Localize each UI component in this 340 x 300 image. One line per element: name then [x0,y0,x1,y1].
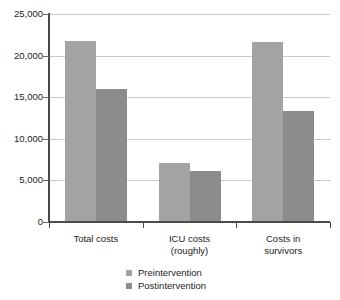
y-tick-label: 20,000 [1,51,43,61]
y-tick-label-wrap: 5,000 [0,175,43,185]
bar-preintervention [159,163,190,222]
bar-postintervention [283,111,314,222]
category-label-line1: ICU costs [169,233,210,244]
x-tick-mark [143,222,144,228]
y-tick-label-wrap: 0 [0,217,43,227]
y-tick-mark [43,14,49,15]
x-axis-line [49,221,330,223]
y-tick-label-wrap: 10,000 [0,134,43,144]
bar-preintervention [65,41,96,222]
legend: Preintervention Postintervention [126,266,266,292]
y-tick-label: 25,000 [1,9,43,19]
category-label: ICU costs(roughly) [143,233,237,256]
y-tick-label-wrap: 25,000 [0,9,43,19]
legend-label: Preintervention [138,267,202,278]
category-label-line1: Costs in [266,233,300,244]
category-label: Costs insurvivors [236,233,330,256]
legend-label: Postintervention [138,280,206,291]
y-tick-label: 15,000 [1,92,43,102]
y-tick-label: 0 [1,217,43,227]
y-tick-mark [43,56,49,57]
bar-postintervention [96,89,127,222]
bar-chart: 05,00010,00015,00020,00025,000 Total cos… [0,0,340,300]
x-tick-mark [236,222,237,228]
x-tick-mark [49,222,50,228]
y-tick-mark [43,180,49,181]
bar-postintervention [190,171,221,222]
category-label-line1: Total costs [73,233,118,244]
category-label-line2: (roughly) [143,245,237,257]
gridline [49,14,330,15]
y-tick-mark [43,97,49,98]
y-tick-label: 10,000 [1,134,43,144]
y-tick-mark [43,139,49,140]
y-tick-label-wrap: 15,000 [0,92,43,102]
y-tick-label-wrap: 20,000 [0,51,43,61]
category-label-line2: survivors [236,245,330,257]
bar-preintervention [252,42,283,222]
category-label: Total costs [49,233,143,245]
legend-swatch-icon [126,283,132,289]
legend-swatch-icon [126,270,132,276]
legend-item-postintervention: Postintervention [126,279,266,292]
x-tick-mark [330,222,331,228]
plot-area [49,14,330,222]
y-tick-label: 5,000 [1,175,43,185]
legend-item-preintervention: Preintervention [126,266,266,279]
y-axis-line [48,13,50,223]
